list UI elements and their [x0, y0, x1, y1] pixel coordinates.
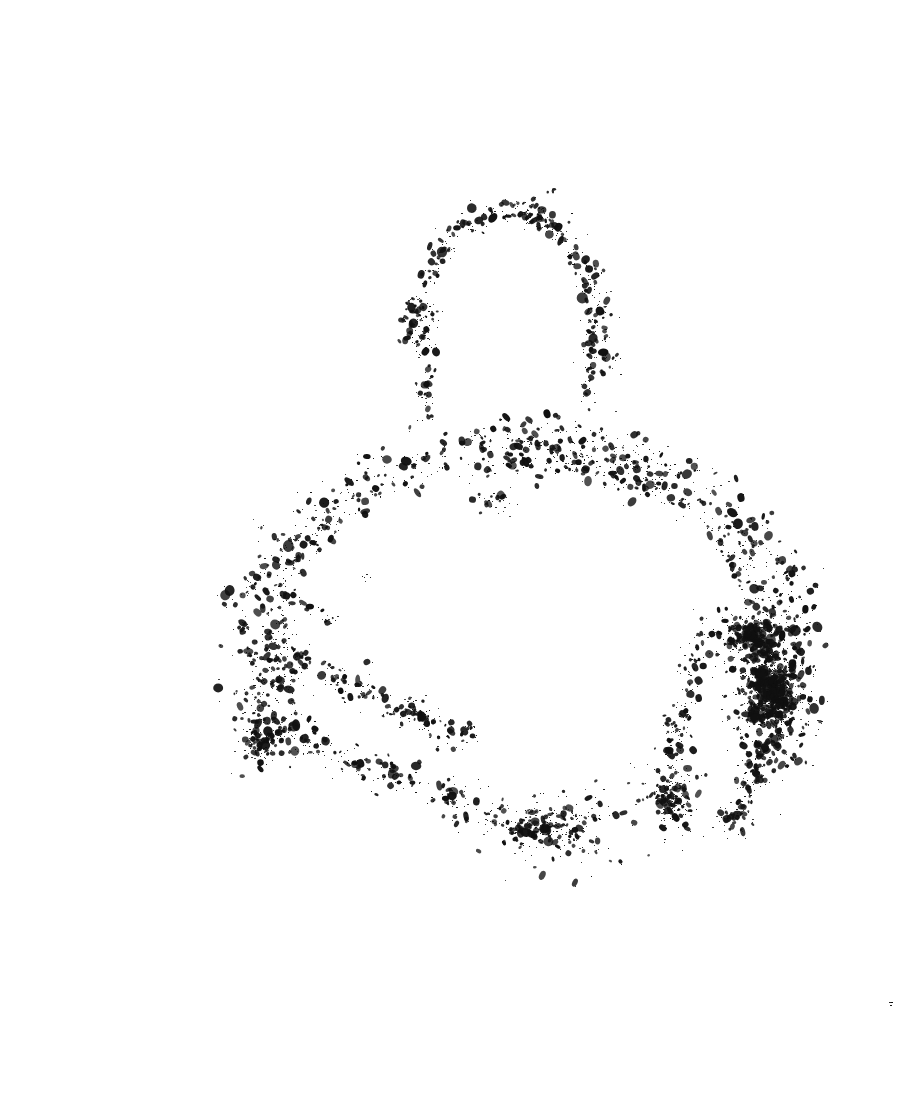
- scan-page: Binarized Speckle Scan Two broken arc-sh…: [0, 0, 914, 1100]
- speckle-artwork-canvas: [0, 0, 914, 1100]
